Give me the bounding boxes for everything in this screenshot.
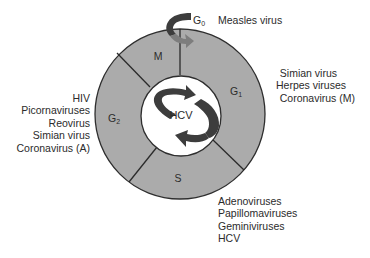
- virus-item: HIV: [72, 92, 90, 104]
- virus-item: HCV: [218, 232, 240, 244]
- virus-item: Picornaviruses: [21, 104, 90, 116]
- virus-item: Simian virus: [280, 67, 337, 79]
- virus-item: Measles virus: [218, 14, 282, 26]
- phase-label-s: S: [174, 172, 181, 184]
- virus-item: Reovirus: [49, 117, 90, 129]
- virus-item: Herpes viruses: [276, 79, 346, 91]
- virus-list-g1: Simian virus Herpes viruses Coronavirus …: [276, 67, 355, 104]
- virus-list-s: Adenoviruses Papillomaviruses Geminiviru…: [218, 195, 297, 245]
- virus-item: Coronavirus (M): [280, 92, 355, 104]
- virus-item: Papillomaviruses: [218, 207, 297, 219]
- virus-item: Simian virus: [33, 129, 90, 141]
- virus-item: Adenoviruses: [218, 195, 282, 207]
- virus-item: Geminiviruses: [218, 220, 285, 232]
- virus-list-g0: Measles virus: [218, 14, 282, 26]
- center-label-hcv: HCV: [169, 109, 192, 121]
- phase-label-m: M: [154, 50, 163, 62]
- phase-label-g1: G1: [230, 85, 242, 98]
- phase-label-g2: G2: [108, 112, 120, 125]
- phase-label-g0: G0: [193, 14, 205, 27]
- virus-list-g2: HIV Picornaviruses Reovirus Simian virus…: [16, 92, 90, 154]
- virus-item: Coronavirus (A): [16, 142, 90, 154]
